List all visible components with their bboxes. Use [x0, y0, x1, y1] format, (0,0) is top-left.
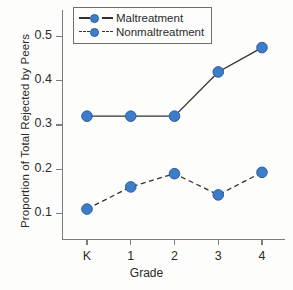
x-tick-label: 1	[127, 249, 134, 263]
data-point-marker[interactable]	[125, 182, 136, 193]
legend-swatch-solid-line-icon	[79, 11, 113, 25]
x-axis-title: Grade	[0, 266, 293, 280]
y-tick-label: 0.5	[35, 28, 52, 42]
y-tick-label: 0.3	[35, 116, 52, 130]
data-point-marker[interactable]	[257, 167, 268, 178]
x-tick-label: 4	[259, 249, 266, 263]
legend-item-maltreatment[interactable]: Maltreatment	[79, 11, 204, 25]
y-tick-label: 0.1	[35, 205, 52, 219]
data-point-marker[interactable]	[125, 111, 136, 122]
legend-label: Maltreatment	[116, 12, 183, 24]
data-point-marker[interactable]	[82, 111, 93, 122]
plot-area: 0.10.20.30.40.5 K1234	[62, 10, 285, 240]
legend: Maltreatment Nonmaltreatment	[73, 7, 212, 44]
data-point-marker[interactable]	[257, 42, 268, 53]
chart-figure: Proportion of Total Rejected by Peers 0.…	[0, 0, 293, 290]
y-tick-label: 0.2	[35, 161, 52, 175]
x-tick-label: 2	[171, 249, 178, 263]
data-point-marker[interactable]	[169, 111, 180, 122]
data-point-marker[interactable]	[82, 204, 93, 215]
legend-item-nonmaltreatment[interactable]: Nonmaltreatment	[79, 25, 204, 39]
series-layer	[62, 10, 285, 240]
x-tick-label: 3	[215, 249, 222, 263]
series-line	[87, 48, 262, 117]
data-point-marker[interactable]	[213, 67, 224, 78]
x-tick-label: K	[83, 249, 91, 263]
y-axis-title: Proportion of Total Rejected by Peers	[19, 26, 31, 236]
legend-swatch-dashed-line-icon	[79, 25, 113, 39]
data-point-marker[interactable]	[213, 190, 224, 201]
y-tick-label: 0.4	[35, 72, 52, 86]
data-point-marker[interactable]	[169, 168, 180, 179]
legend-label: Nonmaltreatment	[116, 26, 204, 38]
